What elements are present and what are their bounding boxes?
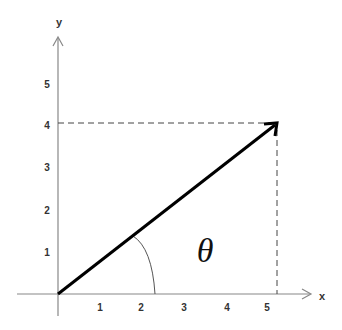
angle-arc — [133, 236, 155, 294]
x-axis-label: x — [319, 290, 326, 302]
y-tick: 3 — [44, 162, 50, 173]
x-tick: 3 — [181, 302, 187, 313]
y-tick: 2 — [44, 205, 50, 216]
y-axis-label: y — [56, 16, 63, 28]
y-axis: y — [53, 16, 63, 316]
y-tick: 5 — [44, 79, 50, 90]
x-tick-labels: 1 2 3 4 5 — [97, 302, 270, 313]
vector-angle-diagram: y x 1 2 3 4 5 1 2 3 4 5 θ — [0, 0, 342, 330]
x-tick: 4 — [224, 302, 230, 313]
x-tick: 2 — [138, 302, 144, 313]
y-tick: 4 — [44, 120, 50, 131]
y-tick: 1 — [44, 247, 50, 258]
angle-theta-label: θ — [197, 232, 214, 269]
vector — [58, 123, 277, 294]
y-tick-labels: 1 2 3 4 5 — [44, 79, 50, 258]
x-tick: 1 — [97, 302, 103, 313]
x-tick: 5 — [264, 302, 270, 313]
